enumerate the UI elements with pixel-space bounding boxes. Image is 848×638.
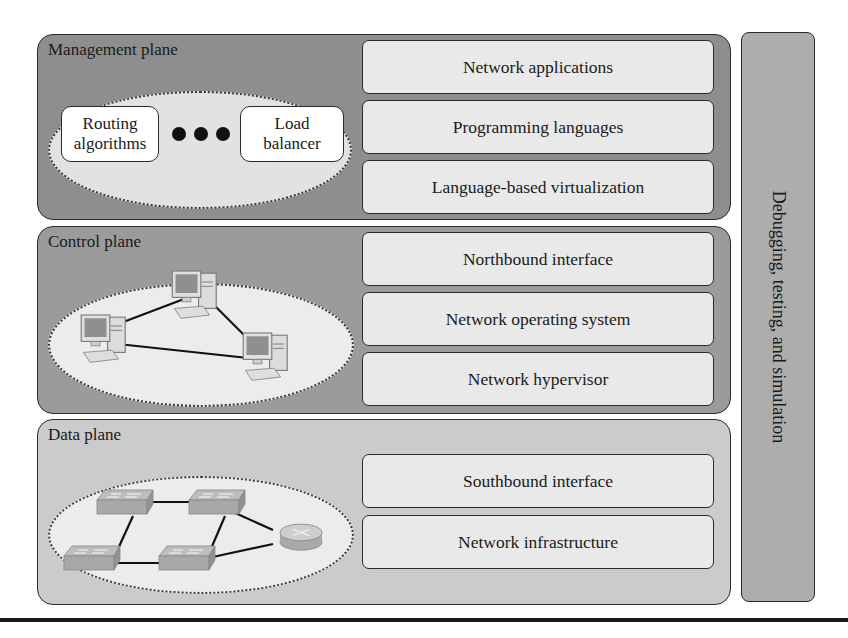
layer-programming-languages: Programming languages (362, 100, 714, 154)
control-plane: Control plane Northbound interface Netwo… (37, 226, 731, 414)
layer-southbound-interface: Southbound interface (362, 454, 714, 508)
layer-network-infrastructure: Network infrastructure (362, 515, 714, 569)
management-plane: Management plane Routing algorithms Load… (37, 34, 731, 220)
switch-network-icon (38, 420, 368, 606)
load-balancer-box: Load balancer (240, 106, 344, 162)
layer-network-hypervisor: Network hypervisor (362, 352, 714, 406)
load-balancer-line2: balancer (263, 134, 321, 154)
layer-northbound-interface: Northbound interface (362, 232, 714, 286)
load-balancer-line1: Load (275, 114, 310, 134)
routing-algorithms-box: Routing algorithms (61, 106, 159, 162)
debugging-testing-simulation-bar: Debugging, testing, and simulation (741, 32, 815, 602)
ellipsis-dots-icon (172, 127, 230, 141)
routing-algorithms-line1: Routing (83, 114, 138, 134)
side-bar-label: Debugging, testing, and simulation (768, 191, 789, 443)
bottom-divider (0, 618, 848, 622)
management-plane-title: Management plane (48, 40, 178, 60)
layer-network-applications: Network applications (362, 40, 714, 94)
controller-network-icon (38, 227, 368, 415)
layer-language-based-virtualization: Language-based virtualization (362, 160, 714, 214)
routing-algorithms-line2: algorithms (74, 134, 147, 154)
data-plane: Data plane (37, 419, 731, 605)
layer-network-operating-system: Network operating system (362, 292, 714, 346)
